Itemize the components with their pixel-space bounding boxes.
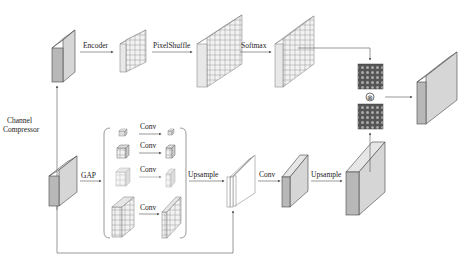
conv-label-5: Conv <box>259 170 276 179</box>
diagram-canvas: Encoder PixelShuffle Softmax ⊗ Channel <box>0 0 475 267</box>
channel-compressor-label-2: Compressor <box>3 125 40 134</box>
concat-block <box>227 155 255 207</box>
kernel-features-bottom <box>358 104 383 129</box>
upsample-label-2: Upsample <box>311 170 342 179</box>
encoded-grid-block <box>120 30 146 72</box>
encoder-label: Encoder <box>83 41 108 50</box>
conv-label-2: Conv <box>140 141 157 150</box>
skip-connection-arrow <box>57 206 233 253</box>
conv-label-4: Conv <box>140 203 157 212</box>
conv-label-3: Conv <box>140 165 157 174</box>
upsample-label-1: Upsample <box>188 170 219 179</box>
multiply-symbol: ⊗ <box>367 94 373 102</box>
output-block <box>417 52 457 124</box>
softmax-label: Softmax <box>241 41 267 50</box>
bottom-input-block <box>49 156 77 206</box>
pixelshuffle-label: PixelShuffle <box>153 41 191 50</box>
conv-output-block <box>282 155 308 207</box>
top-input-block <box>52 30 75 82</box>
upsampled-block <box>346 142 385 215</box>
kernel-weights-top <box>358 64 383 89</box>
gap-label: GAP <box>81 171 96 180</box>
softmax-grid-block <box>275 16 314 87</box>
conv-label-1: Conv <box>140 122 157 131</box>
channel-compressor-label-1: Channel <box>7 116 32 125</box>
pixelshuffle-grid-block <box>197 15 242 87</box>
